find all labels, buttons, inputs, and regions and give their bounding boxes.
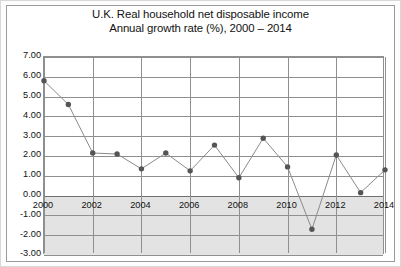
data-point-marker: [358, 190, 363, 195]
x-axis-tick-label: 2002: [72, 201, 112, 210]
y-axis-tick-label: 0.00: [3, 190, 41, 199]
chart-figure: U.K. Real household net disposable incom…: [0, 0, 401, 267]
y-axis-tick-label: 6.00: [3, 71, 41, 80]
y-axis-tick-label: 1.00: [3, 170, 41, 179]
data-point-marker: [236, 175, 241, 180]
y-axis-tick-label: 4.00: [3, 111, 41, 120]
x-axis-tick-label: 2010: [267, 201, 307, 210]
data-point-marker: [285, 164, 290, 169]
x-axis-tick-label: 2012: [315, 201, 355, 210]
plot-area: [43, 56, 384, 254]
y-axis-tick-label: -2.00: [3, 230, 41, 239]
x-axis-tick-label: 2008: [218, 201, 258, 210]
y-axis-tick-label: 3.00: [3, 131, 41, 140]
data-point-marker: [41, 78, 46, 83]
x-axis-tick-label: 2006: [169, 201, 209, 210]
x-axis-tick-label: 2004: [120, 201, 160, 210]
y-axis-tick-label: -1.00: [3, 210, 41, 219]
y-axis-tick-label: -3.00: [3, 249, 41, 258]
data-point-marker: [309, 227, 314, 232]
x-axis-tick-labels: 20002002200420062008201020122014: [43, 201, 384, 213]
data-point-marker: [212, 142, 217, 147]
data-point-marker: [334, 152, 339, 157]
data-point-marker: [261, 135, 266, 140]
data-point-marker: [187, 168, 192, 173]
data-series-line: [44, 57, 385, 255]
y-axis-tick-label: 5.00: [3, 91, 41, 100]
data-point-marker: [139, 166, 144, 171]
data-point-marker: [90, 150, 95, 155]
gridline-horizontal: [44, 255, 383, 256]
x-axis-tick-label: 2000: [23, 201, 63, 210]
y-axis-tick-label: 7.00: [3, 51, 41, 60]
data-point-marker: [66, 102, 71, 107]
chart-title: U.K. Real household net disposable incom…: [1, 7, 400, 35]
data-point-marker: [382, 167, 387, 172]
data-point-marker: [163, 150, 168, 155]
y-axis-tick-labels: 7.006.005.004.003.002.001.000.00-1.00-2.…: [1, 56, 41, 254]
x-axis-tick-label: 2014: [364, 201, 401, 210]
y-axis-tick-label: 2.00: [3, 150, 41, 159]
data-point-marker: [114, 151, 119, 156]
gridline-vertical: [385, 57, 386, 253]
